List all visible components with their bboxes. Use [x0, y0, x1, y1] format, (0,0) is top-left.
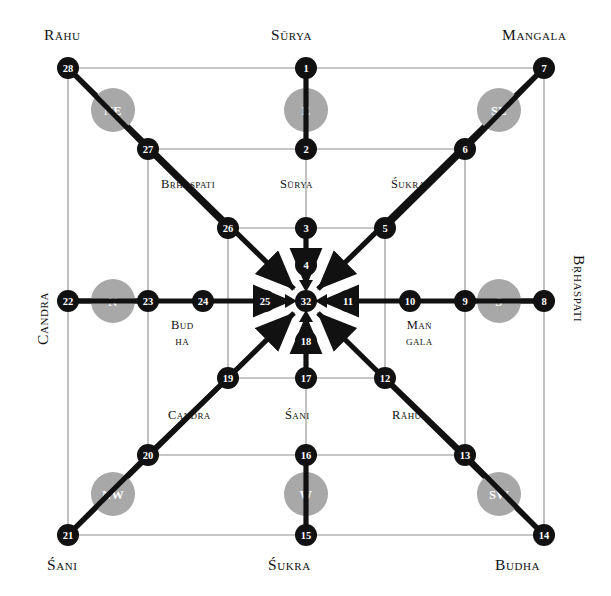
node-number: 7 — [541, 63, 546, 74]
node-2[interactable]: 2 — [295, 138, 317, 160]
outer-label-bottom-center: Śukra — [268, 556, 311, 574]
node-13[interactable]: 13 — [454, 444, 476, 466]
node-number: 18 — [301, 336, 312, 347]
node-4[interactable]: 4 — [295, 254, 317, 276]
node-number: 5 — [382, 223, 387, 234]
node-28[interactable]: 28 — [57, 57, 79, 79]
inner-label-sani: Śani — [285, 408, 310, 423]
direction-circle-nw[interactable]: NW — [91, 472, 135, 516]
mandala-diagram: NE E SE N S NW — [0, 0, 611, 596]
inner-label-mangala-line2: gala — [406, 334, 433, 350]
inner-label-sukra: Śukra — [391, 177, 425, 192]
node-number: 25 — [260, 296, 271, 307]
node-center[interactable]: 32 — [295, 290, 317, 312]
node-8[interactable]: 8 — [533, 290, 555, 312]
outer-label-left: Candra — [34, 292, 52, 345]
outer-label-top-center: Sūrya — [271, 26, 312, 44]
node-number: 12 — [380, 373, 391, 384]
node-number: 20 — [143, 450, 154, 461]
node-number: 26 — [223, 223, 234, 234]
node-26[interactable]: 26 — [217, 217, 239, 239]
node-17[interactable]: 17 — [295, 367, 317, 389]
node-number: 28 — [63, 63, 74, 74]
inner-label-budha-line2: ha — [171, 334, 194, 350]
node-number: 32 — [301, 296, 312, 307]
node-number: 9 — [462, 296, 467, 307]
node-number: 23 — [143, 296, 154, 307]
node-12[interactable]: 12 — [374, 367, 396, 389]
node-number: 15 — [301, 530, 312, 541]
node-19[interactable]: 19 — [217, 367, 239, 389]
node-7[interactable]: 7 — [533, 57, 555, 79]
node-10[interactable]: 10 — [399, 290, 421, 312]
node-number: 24 — [198, 296, 209, 307]
direction-circle-sw[interactable]: SW — [477, 472, 521, 516]
outer-label-bottom-left: Śani — [47, 556, 78, 574]
node-5[interactable]: 5 — [374, 217, 396, 239]
node-21[interactable]: 21 — [57, 524, 79, 546]
direction-circle-se[interactable]: SE — [477, 88, 521, 132]
node-number: 10 — [405, 296, 416, 307]
node-14[interactable]: 14 — [533, 524, 555, 546]
node-number: 3 — [303, 223, 308, 234]
diagram-canvas: NE E SE N S NW — [0, 0, 611, 596]
node-number: 22 — [63, 296, 74, 307]
node-3[interactable]: 3 — [295, 217, 317, 239]
node-11[interactable]: 11 — [337, 290, 359, 312]
node-number: 17 — [301, 373, 312, 384]
node-25[interactable]: 25 — [254, 290, 276, 312]
node-22[interactable]: 22 — [57, 290, 79, 312]
outer-label-right: Bṛhaspati — [570, 255, 588, 322]
inner-label-rahu: Rāhu — [392, 408, 421, 423]
node-number: 4 — [303, 260, 309, 271]
node-23[interactable]: 23 — [137, 290, 159, 312]
node-number: 1 — [303, 63, 308, 74]
node-16[interactable]: 16 — [295, 444, 317, 466]
node-number: 19 — [223, 373, 234, 384]
node-6[interactable]: 6 — [454, 138, 476, 160]
inner-label-brhaspati: Bṛhaspati — [161, 177, 215, 192]
inner-label-surya: Sūrya — [280, 177, 313, 192]
node-24[interactable]: 24 — [192, 290, 214, 312]
node-number: 8 — [541, 296, 546, 307]
node-number: 2 — [303, 144, 308, 155]
node-number: 21 — [63, 530, 74, 541]
node-number: 16 — [301, 450, 312, 461]
outer-label-bottom-right: Budha — [495, 556, 540, 574]
outer-label-top-right: Mangala — [502, 26, 566, 44]
node-number: 27 — [143, 144, 154, 155]
node-9[interactable]: 9 — [454, 290, 476, 312]
node-number: 11 — [343, 296, 353, 307]
node-number: 13 — [460, 450, 471, 461]
node-1[interactable]: 1 — [295, 57, 317, 79]
node-number: 6 — [462, 144, 467, 155]
inner-label-budha-line1: Bud — [171, 318, 194, 334]
inner-label-mangala-line1: Maṅ — [406, 318, 433, 334]
node-15[interactable]: 15 — [295, 524, 317, 546]
node-27[interactable]: 27 — [137, 138, 159, 160]
node-20[interactable]: 20 — [137, 444, 159, 466]
node-number: 14 — [539, 530, 550, 541]
inner-label-candra: Candra — [168, 408, 211, 423]
outer-label-top-left: Rāhu — [44, 26, 81, 44]
node-18[interactable]: 18 — [295, 330, 317, 352]
